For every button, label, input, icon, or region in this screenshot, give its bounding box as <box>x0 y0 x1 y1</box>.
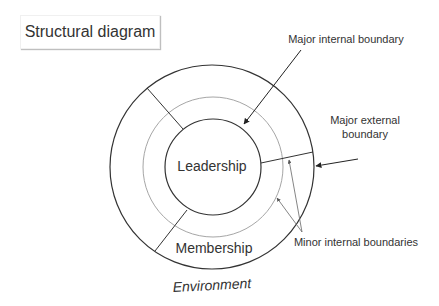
membership-label: Membership <box>175 240 252 256</box>
divider-right <box>261 152 313 163</box>
major-external-label-line2: boundary <box>342 128 388 140</box>
environment-label: Environment <box>172 275 252 295</box>
divider-upper-left <box>147 88 183 129</box>
leadership-label: Leadership <box>177 158 246 174</box>
minor-internal-arrow-2 <box>277 198 302 232</box>
minor-internal-arrow-1 <box>289 160 302 232</box>
major-internal-label: Major internal boundary <box>288 33 404 45</box>
major-internal-arrow <box>244 50 301 124</box>
structural-diagram: Leadership Membership Environment Major … <box>0 0 439 306</box>
major-external-label-line1: Major external <box>330 114 400 126</box>
major-external-arrow <box>316 159 358 166</box>
minor-internal-label: Minor internal boundaries <box>294 236 419 248</box>
